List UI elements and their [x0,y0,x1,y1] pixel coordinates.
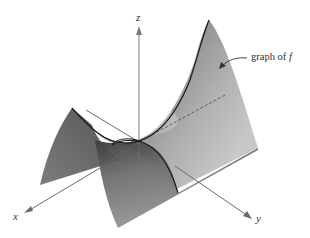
function-f-symbol: f [289,51,292,62]
y-axis-label: y [256,213,261,224]
y-axis-arrow-icon [243,211,252,219]
x-axis-label: x [13,211,18,222]
y-axis [175,166,248,216]
surface-highlight [122,106,178,134]
graph-of-text: graph of [251,51,289,62]
surface-plot [0,0,310,238]
graph-of-f-label: graph of f [251,52,292,63]
z-axis-label: z [136,12,140,23]
z-axis-arrow-icon [136,26,142,35]
saddle-surface-diagram: z x y graph of f [0,0,310,238]
x-axis-arrow-icon [24,206,33,213]
